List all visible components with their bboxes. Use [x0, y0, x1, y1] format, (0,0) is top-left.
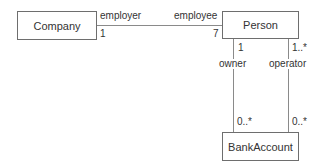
- multiplicity-employer: 1: [100, 29, 106, 39]
- multiplicity-employee: 7: [213, 29, 219, 39]
- role-owner: owner: [219, 59, 246, 69]
- multiplicity-owner-account: 0..*: [237, 117, 252, 127]
- association-line-operator: [288, 38, 289, 132]
- class-person-name: Person: [243, 19, 278, 31]
- association-line-owner: [233, 38, 234, 132]
- multiplicity-operator: 1..*: [292, 43, 307, 53]
- class-company[interactable]: Company: [17, 11, 97, 40]
- association-line-company-person: [96, 25, 222, 26]
- class-person[interactable]: Person: [222, 11, 299, 39]
- multiplicity-owner: 1: [238, 43, 244, 53]
- role-operator: operator: [269, 59, 306, 69]
- role-employee: employee: [174, 11, 217, 21]
- multiplicity-operator-account: 0..*: [292, 117, 307, 127]
- class-company-name: Company: [33, 20, 80, 32]
- class-bankaccount[interactable]: BankAccount: [222, 132, 299, 161]
- class-bankaccount-name: BankAccount: [228, 141, 293, 153]
- role-employer: employer: [100, 11, 141, 21]
